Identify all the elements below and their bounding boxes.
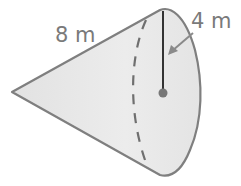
slant-height-label: 8 m	[55, 23, 96, 47]
base-center-dot	[159, 89, 168, 98]
radius-label: 4 m	[191, 9, 232, 33]
cone-diagram: 8 m 4 m	[0, 0, 241, 186]
cone-body	[12, 9, 200, 176]
cone-figure: 8 m 4 m	[0, 0, 241, 186]
